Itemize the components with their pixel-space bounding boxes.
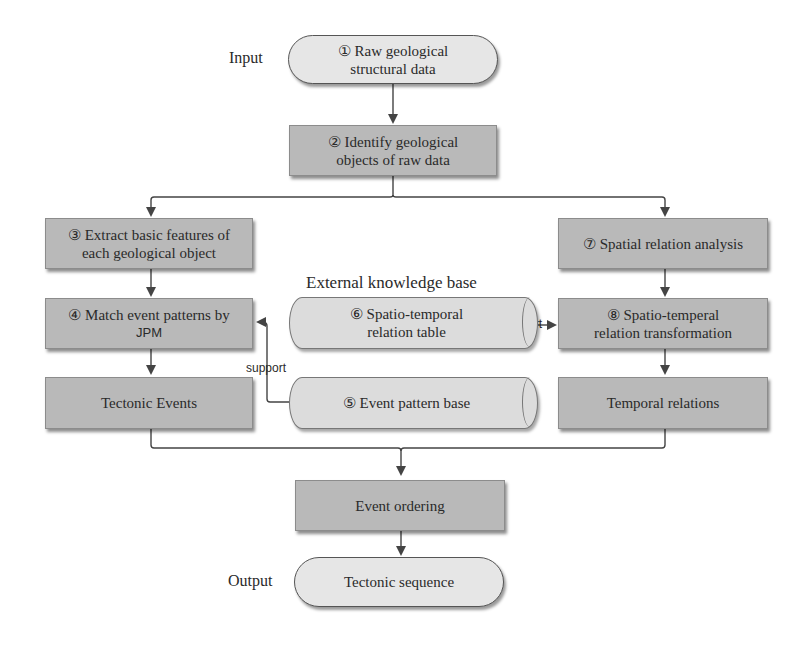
- node-5-text: ⑤ Event pattern base: [343, 394, 471, 412]
- node-7-text: ⑦ Spatial relation analysis: [583, 235, 743, 253]
- tectonic-events-text: Tectonic Events: [101, 394, 197, 412]
- arrow-2-to-3: [151, 176, 393, 215]
- node-temporal-relations: Temporal relations: [558, 377, 768, 429]
- node-8-line-2: relation transformation: [594, 324, 732, 342]
- node-raw-geological-data: ① Raw geological structural data: [288, 35, 498, 84]
- node-identify-geological-objects: ② Identify geological objects of raw dat…: [289, 125, 497, 176]
- node-4-line-2: JPM: [136, 324, 162, 342]
- node-match-event-patterns: ④ Match event patterns by JPM: [45, 298, 253, 349]
- external-knowledge-base-label: External knowledge base: [306, 273, 477, 293]
- node-event-pattern-base: ⑤ Event pattern base: [289, 377, 538, 429]
- node-tectonic-events: Tectonic Events: [45, 377, 253, 429]
- node-2-line-1: ② Identify geological: [328, 133, 458, 151]
- node-3-line-1: ③ Extract basic features of: [68, 226, 230, 244]
- node-spatio-temporal-relation-transformation: ⑧ Spatio-temperal relation transformatio…: [558, 298, 768, 349]
- node-1-line-2: structural data: [350, 60, 435, 78]
- arrow-2-to-7: [393, 195, 665, 215]
- node-tectonic-sequence: Tectonic sequence: [294, 557, 504, 607]
- tectonic-sequence-text: Tectonic sequence: [344, 573, 454, 591]
- node-spatial-relation-analysis: ⑦ Spatial relation analysis: [558, 218, 768, 269]
- input-label: Input: [229, 49, 263, 67]
- event-ordering-text: Event ordering: [355, 497, 445, 515]
- node-2-line-2: objects of raw data: [336, 151, 450, 169]
- arrow-events-to-ordering: [151, 429, 401, 474]
- arrow-temporal-to-ordering: [401, 429, 665, 451]
- node-6-line-2: relation table: [367, 323, 446, 341]
- temporal-relations-text: Temporal relations: [607, 394, 720, 412]
- support-label-left: support: [246, 361, 286, 375]
- node-1-line-1: ① Raw geological: [338, 42, 448, 60]
- output-label: Output: [228, 572, 272, 590]
- node-4-line-1: ④ Match event patterns by: [68, 306, 229, 324]
- node-extract-basic-features: ③ Extract basic features of each geologi…: [45, 218, 253, 269]
- node-event-ordering: Event ordering: [295, 480, 505, 531]
- node-6-line-1: ⑥ Spatio-temporal: [350, 305, 463, 323]
- node-8-line-1: ⑧ Spatio-temperal: [607, 306, 720, 324]
- node-3-line-2: each geological object: [82, 244, 216, 262]
- node-spatio-temporal-relation-table: ⑥ Spatio-temporal relation table: [289, 297, 538, 349]
